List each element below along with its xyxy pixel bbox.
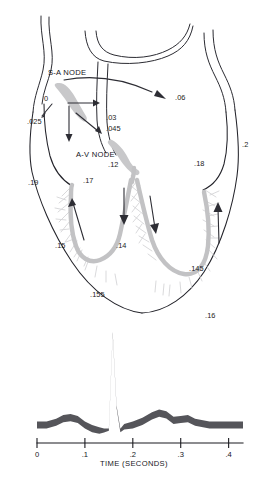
purkinje-branch	[131, 176, 156, 260]
arrow-to-06-head	[154, 90, 166, 99]
label-timing-15: .15	[55, 241, 66, 250]
purkinje-network-group	[55, 176, 219, 296]
label-timing-045: .045	[106, 124, 121, 133]
label-timing-025: .025	[27, 117, 42, 126]
label-timing-16: .16	[205, 311, 216, 320]
ecg-tick-label: .4	[225, 450, 231, 459]
label-timing-14: .14	[116, 241, 127, 250]
arrow-to-045	[76, 113, 98, 131]
label-timing-2: .2	[242, 140, 248, 149]
label-timing-17: .17	[83, 176, 94, 185]
ecg-tick-label: 0	[35, 450, 39, 459]
arrow-rv-upward-head	[214, 202, 223, 212]
ecg-chart-group: 0.1.2.3.4 TIME (SECONDS)	[35, 332, 243, 468]
ecg-tick-label: .2	[130, 450, 136, 459]
ecg-tick-label: .3	[178, 450, 184, 459]
conduction-system-group	[55, 83, 209, 274]
label-timing-12: .12	[108, 160, 119, 169]
purkinje-branch	[58, 186, 117, 285]
ecg-ticks-group: 0.1.2.3.4	[35, 438, 232, 459]
arrow-to-06	[64, 78, 152, 92]
atrial-inner-wall-left	[44, 104, 72, 186]
label-timing-0: 0	[44, 94, 48, 103]
label-timing-155: .155	[90, 290, 105, 299]
pulmonary-artery-left	[97, 62, 106, 153]
figure-canvas: S-A NODE A-V NODE 0 .025 .03 .045 .06 .1…	[0, 0, 268, 480]
label-sa-node: S-A NODE	[48, 68, 86, 77]
atrial-inner-wall-right	[203, 112, 227, 190]
sa-node-blob	[55, 83, 87, 122]
vessel-outline-right-inner	[204, 33, 226, 112]
right-bundle-branch	[137, 180, 209, 274]
arrow-atrial-down-head	[66, 134, 73, 142]
label-timing-19: .19	[28, 178, 39, 187]
ecg-axis-title: TIME (SECONDS)	[100, 459, 168, 468]
heart-labels-group: S-A NODE A-V NODE 0 .025 .03 .045 .06 .1…	[27, 68, 248, 320]
ecg-trace	[37, 332, 243, 434]
label-timing-06: .06	[175, 93, 186, 102]
label-timing-18: .18	[194, 159, 205, 168]
ecg-tick-label: .1	[82, 450, 88, 459]
label-timing-03: .03	[106, 113, 117, 122]
label-av-node: A-V NODE	[76, 150, 115, 159]
arrow-septum-right-down	[150, 196, 155, 228]
cardiac-conduction-figure: S-A NODE A-V NODE 0 .025 .03 .045 .06 .1…	[0, 0, 268, 480]
label-timing-145: .145	[189, 264, 204, 273]
aorta-arch-inner	[96, 24, 190, 57]
